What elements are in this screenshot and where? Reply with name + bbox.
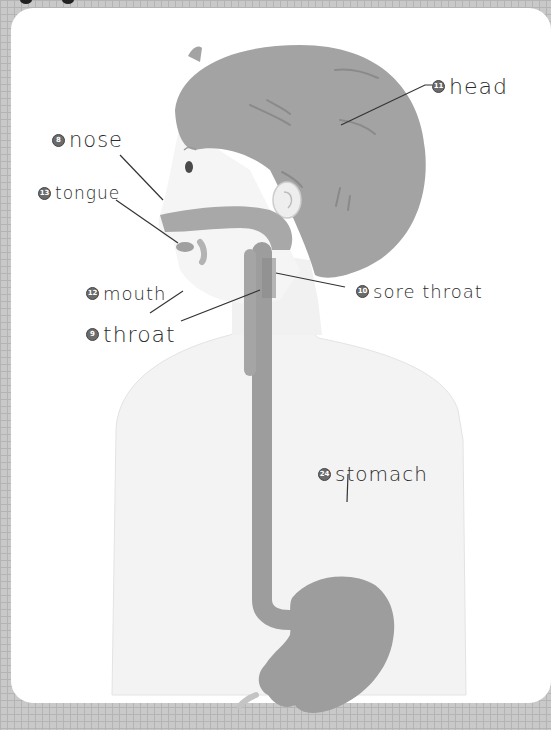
label-sore-throat-text: sore throat — [373, 281, 483, 302]
label-tongue-text: tongue — [55, 183, 120, 203]
badge-13: 13 — [38, 187, 51, 200]
ear — [273, 182, 301, 218]
badge-8: 8 — [52, 134, 65, 147]
label-stomach: 24 stomach — [318, 462, 428, 486]
label-throat: 9 throat — [86, 322, 176, 347]
label-head: 11 head — [432, 74, 508, 99]
label-throat-text: throat — [103, 322, 176, 347]
label-sore-throat: 10 sore throat — [356, 281, 483, 302]
badge-24: 24 — [318, 468, 331, 481]
label-mouth-text: mouth — [103, 283, 166, 304]
badge-12: 12 — [86, 287, 99, 300]
label-nose: 8 nose — [52, 128, 123, 152]
label-tongue: 13 tongue — [38, 183, 120, 203]
badge-10: 10 — [356, 285, 369, 298]
label-mouth: 12 mouth — [86, 283, 166, 304]
badge-9: 9 — [86, 328, 99, 341]
badge-11: 11 — [432, 80, 445, 93]
label-stomach-text: stomach — [335, 462, 428, 486]
tongue-shape — [176, 242, 194, 252]
eye — [185, 161, 193, 173]
label-head-text: head — [449, 74, 508, 99]
label-nose-text: nose — [69, 128, 123, 152]
